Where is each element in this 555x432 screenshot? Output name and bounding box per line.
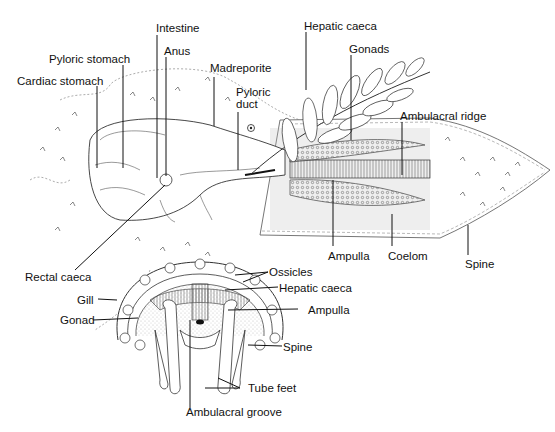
- label-intestine: Intestine: [156, 22, 199, 34]
- label-gill: Gill: [77, 294, 94, 306]
- label-coelom: Coelom: [388, 250, 428, 262]
- ambulacral-ridge-shape: [290, 160, 430, 178]
- label-gonads: Gonads: [349, 43, 389, 55]
- label-ambulacral-groove: Ambulacral groove: [186, 406, 282, 418]
- label-gonad: Gonad: [60, 314, 95, 326]
- label-tube-feet: Tube feet: [248, 382, 296, 394]
- label-pyloric-stomach: Pyloric stomach: [49, 53, 130, 65]
- label-hepatic-caeca-cross: Hepatic caeca: [279, 282, 352, 294]
- label-rectal-caeca: Rectal caeca: [25, 271, 91, 283]
- label-pyloric-duct-line1: Pyloric: [236, 86, 271, 98]
- label-cardiac-stomach: Cardiac stomach: [17, 75, 103, 87]
- label-hepatic-caeca: Hepatic caeca: [304, 20, 377, 32]
- label-ampulla-cross: Ampulla: [308, 304, 350, 316]
- label-ampulla-upper: Ampulla: [328, 250, 370, 262]
- sea-star-anatomy-diagram: Intestine Pyloric stomach Anus Cardiac s…: [0, 0, 555, 432]
- arm-cross-section: [117, 259, 283, 394]
- label-spine-upper: Spine: [465, 258, 494, 270]
- label-pyloric-duct-line2: duct: [236, 98, 258, 110]
- label-madreporite: Madreporite: [210, 62, 271, 74]
- label-ambulacral-ridge: Ambulacral ridge: [400, 110, 486, 122]
- label-ossicles: Ossicles: [269, 266, 312, 278]
- label-anus: Anus: [164, 45, 190, 57]
- label-spine-cross: Spine: [283, 341, 312, 353]
